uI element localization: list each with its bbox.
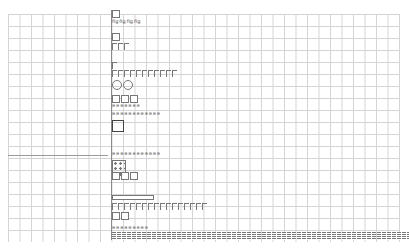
leaf-node[interactable] xyxy=(222,232,226,240)
leaf-node[interactable] xyxy=(262,232,266,240)
leaf-node[interactable] xyxy=(127,232,131,240)
label-node[interactable]: ǝ xyxy=(141,110,144,116)
arrow-icon[interactable] xyxy=(136,70,141,77)
label-node[interactable]: ǝ xyxy=(132,102,135,108)
label-node[interactable]: ǝ xyxy=(141,224,144,230)
leaf-node[interactable] xyxy=(197,232,201,240)
arrow-icon[interactable] xyxy=(124,203,129,210)
arrow-icon[interactable] xyxy=(172,203,177,210)
arrow-icon[interactable] xyxy=(154,203,159,210)
leaf-node[interactable] xyxy=(322,232,326,240)
leaf-node[interactable] xyxy=(287,232,291,240)
circle-node[interactable] xyxy=(123,80,133,90)
box-node[interactable] xyxy=(112,212,120,220)
arrow-icon[interactable] xyxy=(118,70,123,77)
leaf-node[interactable] xyxy=(362,232,366,240)
arrow-icon[interactable] xyxy=(124,43,129,50)
leaf-node[interactable] xyxy=(337,232,341,240)
arrow-icon[interactable] xyxy=(118,43,123,50)
arrow-icon[interactable] xyxy=(172,70,177,77)
leaf-node[interactable] xyxy=(207,232,211,240)
label-node[interactable]: ǝ xyxy=(136,150,139,156)
label-node[interactable]: ǝ xyxy=(124,150,127,156)
leaf-node[interactable] xyxy=(167,232,171,240)
arrow-icon[interactable] xyxy=(136,203,141,210)
arrow-icon[interactable] xyxy=(130,203,135,210)
leaf-node[interactable] xyxy=(342,232,346,240)
label-node[interactable]: ǝ xyxy=(136,224,139,230)
label-node[interactable]: ǝ xyxy=(128,110,131,116)
label-node[interactable]: ǝ xyxy=(145,150,148,156)
label-node[interactable]: ǝ xyxy=(112,110,115,116)
leaf-node[interactable] xyxy=(292,232,296,240)
leaf-node[interactable] xyxy=(272,232,276,240)
label-node[interactable]: ǝ xyxy=(112,150,115,156)
label-node[interactable]: ǝ xyxy=(112,224,115,230)
arrow-icon[interactable] xyxy=(124,70,129,77)
label-node[interactable]: ǝ xyxy=(124,110,127,116)
label-node[interactable]: ǝ xyxy=(153,150,156,156)
leaf-node[interactable] xyxy=(137,232,141,240)
arrow-icon[interactable] xyxy=(142,203,147,210)
leaf-node[interactable] xyxy=(297,232,301,240)
label-node[interactable]: fig xyxy=(119,18,125,24)
leaf-node[interactable] xyxy=(132,232,136,240)
leaf-node[interactable] xyxy=(392,232,396,240)
leaf-node[interactable] xyxy=(147,232,151,240)
leaf-node[interactable] xyxy=(117,232,121,240)
leaf-node[interactable] xyxy=(182,232,186,240)
label-node[interactable]: ǝ xyxy=(157,150,160,156)
label-node[interactable]: ǝ xyxy=(124,102,127,108)
label-node[interactable]: ǝ xyxy=(128,102,131,108)
circle-node[interactable] xyxy=(112,80,122,90)
leaf-node[interactable] xyxy=(327,232,331,240)
box-node[interactable] xyxy=(112,172,120,180)
arrow-icon[interactable] xyxy=(160,203,165,210)
box-node[interactable] xyxy=(130,172,138,180)
label-node[interactable]: ǝ xyxy=(132,150,135,156)
leaf-node[interactable] xyxy=(307,232,311,240)
label-node[interactable]: ǝ xyxy=(112,102,115,108)
leaf-node[interactable] xyxy=(302,232,306,240)
label-node[interactable]: ǝ xyxy=(145,110,148,116)
leaf-node[interactable] xyxy=(217,232,221,240)
label-node[interactable]: ǝ xyxy=(149,150,152,156)
leaf-node[interactable] xyxy=(172,232,176,240)
leaf-node[interactable] xyxy=(397,232,401,240)
label-node[interactable]: ǝ xyxy=(132,110,135,116)
leaf-node[interactable] xyxy=(247,232,251,240)
leaf-node[interactable] xyxy=(402,232,406,240)
label-node[interactable]: fig xyxy=(134,18,140,24)
label-node[interactable]: ǝ xyxy=(116,224,119,230)
leaf-node[interactable] xyxy=(372,232,376,240)
label-node[interactable]: ǝ xyxy=(128,150,131,156)
arrow-icon[interactable] xyxy=(160,70,165,77)
leaf-node[interactable] xyxy=(122,232,126,240)
leaf-node[interactable] xyxy=(382,232,386,240)
box-node[interactable] xyxy=(112,33,120,41)
leaf-node[interactable] xyxy=(212,232,216,240)
leaf-node[interactable] xyxy=(367,232,371,240)
leaf-node[interactable] xyxy=(232,232,236,240)
label-node[interactable]: ǝ xyxy=(136,110,139,116)
label-node[interactable]: ǝ xyxy=(136,102,139,108)
label-node[interactable]: ǝ xyxy=(141,150,144,156)
leaf-node[interactable] xyxy=(282,232,286,240)
leaf-node[interactable] xyxy=(112,232,116,240)
leaf-node[interactable] xyxy=(162,232,166,240)
arrow-icon[interactable] xyxy=(190,203,195,210)
label-node[interactable]: ǝ xyxy=(157,110,160,116)
box-node[interactable] xyxy=(121,172,129,180)
leaf-node[interactable] xyxy=(177,232,181,240)
leaf-node[interactable] xyxy=(257,232,261,240)
leaf-node[interactable] xyxy=(227,232,231,240)
leaf-node[interactable] xyxy=(252,232,256,240)
arrow-icon[interactable] xyxy=(154,70,159,77)
label-node[interactable]: ǝ xyxy=(149,110,152,116)
leaf-node[interactable] xyxy=(202,232,206,240)
leaf-node[interactable] xyxy=(377,232,381,240)
arrow-icon[interactable] xyxy=(166,203,171,210)
arrow-icon[interactable] xyxy=(148,70,153,77)
leaf-node[interactable] xyxy=(267,232,271,240)
box-node[interactable] xyxy=(121,212,129,220)
